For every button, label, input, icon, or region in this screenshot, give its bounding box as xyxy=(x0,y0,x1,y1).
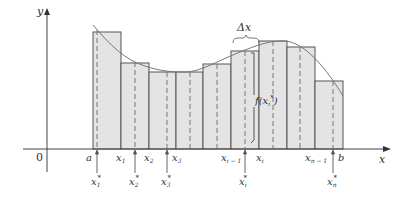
y-axis-label: y xyxy=(36,5,44,18)
f-xi-star-label: f(xi*) xyxy=(254,94,278,107)
sample-arrows xyxy=(96,150,335,173)
label-x-i-minus-1: xi − 1 xyxy=(221,152,241,164)
label-a: a xyxy=(86,152,92,163)
sample-labels: x1* x2* x3* xi* xn* xyxy=(91,174,338,188)
label-x1: x1 xyxy=(116,152,125,164)
label-x3: x3 xyxy=(172,152,182,164)
delta-x-brace xyxy=(233,35,259,43)
riemann-sum-diagram: Δx f(xi*) y x 0 a x1 x2 x3 xi − 1 xi xn … xyxy=(0,0,404,200)
x-axis-label: x xyxy=(379,153,386,166)
x-axis-arrow-icon xyxy=(383,146,391,152)
delta-x-label: Δx xyxy=(236,21,252,34)
partition-labels: a x1 x2 x3 xi − 1 xi xn − 1 b xyxy=(86,152,344,164)
label-xn-star: xn* xyxy=(327,174,338,188)
label-b: b xyxy=(338,152,344,163)
y-axis-arrow-icon xyxy=(44,8,50,15)
label-xi-star: xi* xyxy=(239,174,248,188)
label-x2: x2 xyxy=(144,152,154,164)
label-x3-star: x3* xyxy=(161,174,171,188)
rectangle-3 xyxy=(149,72,176,149)
label-x-i: xi xyxy=(256,152,264,164)
rectangle-n xyxy=(315,81,343,149)
label-x1-star: x1* xyxy=(91,174,101,188)
origin-label: 0 xyxy=(36,151,43,164)
label-x2-star: x2* xyxy=(129,174,139,188)
label-x-n-minus-1: xn − 1 xyxy=(305,152,327,164)
rectangle-8 xyxy=(287,47,315,149)
